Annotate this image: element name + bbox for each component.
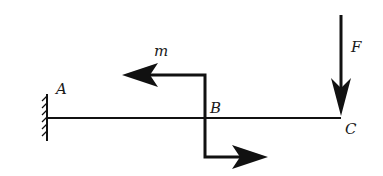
label-point-b: B: [209, 99, 221, 117]
label-moment-m: m: [154, 42, 168, 60]
label-force-f: F: [350, 38, 362, 56]
label-point-a: A: [54, 80, 67, 98]
beam-diagram: A B C m F: [0, 0, 383, 176]
fixed-support-icon: [42, 94, 47, 141]
moment-arrow-icon: [122, 63, 268, 169]
force-arrow-icon: [331, 15, 351, 116]
label-point-c: C: [345, 120, 357, 138]
